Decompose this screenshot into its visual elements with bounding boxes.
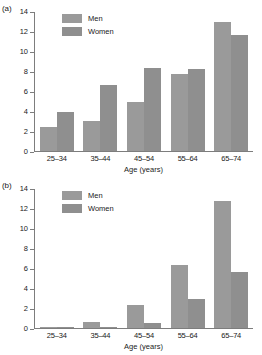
panel-a-xtick-label: 25–34: [35, 154, 79, 163]
chart-panel-a: (a) 14 12 10 8 6 4 2 0 Men Women 25–34 3…: [0, 0, 262, 177]
legend-swatch-men-icon: [62, 191, 82, 200]
bar-men: [214, 22, 231, 151]
bar-men: [40, 127, 57, 151]
panel-b-ytick-label: 0: [24, 324, 28, 333]
panel-b-ytick-label: 2: [24, 304, 28, 313]
bar-women: [57, 112, 74, 151]
legend-swatch-women-icon: [62, 204, 82, 213]
panel-a-x-tick-labels: 25–34 35–44 45–54 55–64 65–74: [35, 154, 253, 163]
panel-a-legend: Men Women: [62, 14, 114, 36]
panel-b-ytick-label: 12: [20, 204, 28, 213]
bar-men: [171, 265, 188, 328]
panel-b-ytick-label: 4: [24, 284, 28, 293]
panel-a-xtick-label: 55–64: [166, 154, 210, 163]
panel-b-x-axis: [34, 328, 253, 329]
panel-b-label: (b): [2, 181, 11, 190]
panel-a-xtick-label: 45–54: [122, 154, 166, 163]
bar-women: [100, 327, 117, 328]
panel-a-xtick-label: 35–44: [79, 154, 123, 163]
panel-b-ytick-label: 6: [24, 264, 28, 273]
panel-a-ytick-label: 2: [24, 127, 28, 136]
bar-men: [127, 102, 144, 151]
panel-b-legend-item-men: Men: [62, 191, 114, 200]
panel-a-ytick-label: 0: [24, 147, 28, 156]
bar-women: [144, 68, 161, 151]
bar-group: [166, 12, 210, 151]
bar-women: [100, 85, 117, 151]
bar-group: [209, 189, 253, 328]
bar-men: [127, 305, 144, 328]
panel-b-xtick-label: 45–54: [122, 331, 166, 340]
panel-a-ytick-label: 4: [24, 107, 28, 116]
bar-men: [83, 322, 100, 328]
bar-group: [122, 189, 166, 328]
legend-swatch-women-icon: [62, 27, 82, 36]
panel-a-ytick-label: 8: [24, 67, 28, 76]
panel-b-ytick-label: 14: [20, 184, 28, 193]
panel-b-x-tick-labels: 25–34 35–44 45–54 55–64 65–74: [35, 331, 253, 340]
panel-a-legend-item-men: Men: [62, 14, 114, 23]
bar-women: [231, 272, 248, 328]
panel-b-xtick-label: 55–64: [166, 331, 210, 340]
panel-b-legend: Men Women: [62, 191, 114, 213]
bar-women: [57, 327, 74, 328]
legend-swatch-men-icon: [62, 14, 82, 23]
legend-label-women: Women: [88, 204, 114, 213]
panel-a-ytick-label: 12: [20, 27, 28, 36]
bar-women: [231, 35, 248, 151]
legend-label-men: Men: [88, 191, 103, 200]
bar-women: [144, 323, 161, 328]
bar-men: [83, 121, 100, 151]
bar-men: [214, 201, 231, 328]
panel-a-legend-item-women: Women: [62, 27, 114, 36]
bar-group: [166, 189, 210, 328]
panel-a-xtick-label: 65–74: [209, 154, 253, 163]
panel-b-xtick-label: 25–34: [35, 331, 79, 340]
bar-men: [171, 74, 188, 151]
panel-b-x-axis-title: Age (years): [34, 342, 253, 351]
legend-label-men: Men: [88, 14, 103, 23]
panel-a-ytick-label: 14: [20, 7, 28, 16]
bar-women: [188, 69, 205, 151]
panel-a-x-axis: [34, 151, 253, 152]
panel-b-xtick-label: 65–74: [209, 331, 253, 340]
panel-a-x-axis-title: Age (years): [34, 165, 253, 174]
panel-a-ytick-label: 6: [24, 87, 28, 96]
legend-label-women: Women: [88, 27, 114, 36]
panel-a-ytick-label: 10: [20, 47, 28, 56]
panel-b-xtick-label: 35–44: [79, 331, 123, 340]
panel-b-ytick-label: 8: [24, 244, 28, 253]
panel-b-ytick-label: 10: [20, 224, 28, 233]
bar-group: [209, 12, 253, 151]
bar-group: [122, 12, 166, 151]
panel-b-legend-item-women: Women: [62, 204, 114, 213]
bar-men: [40, 327, 57, 328]
chart-panel-b: (b) 14 12 10 8 6 4 2 0 Men Women 25–34 3…: [0, 177, 262, 354]
panel-a-label: (a): [2, 4, 11, 13]
bar-women: [188, 299, 205, 328]
